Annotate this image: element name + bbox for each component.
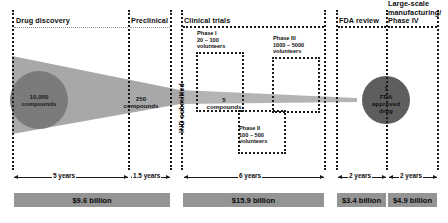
phase-1-unit: volunteers: [197, 43, 225, 50]
divider-clinical-end: [324, 10, 326, 170]
preclinical-unit: compounds: [111, 102, 171, 109]
phase-2-labels: Phase II 100 – 500 volunteers: [239, 125, 267, 145]
divider-fda-start: [336, 10, 338, 170]
divider-preclinical-start: [128, 10, 130, 170]
timeline-arrow-discovery-left: [14, 175, 18, 179]
cost-label-fda: $3.4 billion: [342, 196, 381, 205]
phase-2-unit: volunteers: [239, 138, 267, 145]
drug-development-pipeline-diagram: 10,000 compounds 1 FDA approved drug 250…: [0, 0, 448, 223]
divider-discovery-left: [12, 10, 14, 170]
timeline-arrow-preclinical-right: [166, 175, 170, 179]
timeline-arrow-fda-right: [382, 175, 386, 179]
phase-1-labels: Phase I 20 – 100 volunteers: [197, 30, 225, 50]
timeline-label-clinical: 6 years: [238, 172, 262, 179]
discovery-count: 10,000: [21, 93, 56, 100]
stage-circle-discovery: 10,000 compounds: [10, 71, 68, 129]
phase-iv-line-3: Phase IV: [388, 16, 419, 25]
stage-label-preclinical: 250 compounds: [111, 95, 171, 110]
preclinical-count: 250: [111, 95, 171, 102]
timeline-label-discovery: 5 years: [52, 172, 76, 179]
cost-bar-clinical: $15.9 billion: [183, 193, 324, 207]
phase-1-volunteers: 20 – 100: [197, 37, 225, 44]
timeline-arrow-phase4-right: [433, 175, 437, 179]
phase-1-name: Phase I: [197, 30, 225, 37]
divider-ind-left: [170, 10, 172, 170]
phase-3-labels: Phase III 1000 – 5000 volunteers: [273, 35, 304, 55]
header-rule-preclinical: [130, 27, 170, 28]
section-header-drug-discovery: Drug discovery: [16, 17, 70, 26]
timeline-arrow-phase4-left: [389, 175, 393, 179]
divider-fda-end: [386, 10, 388, 170]
cost-label-phase4: $4.9 billion: [393, 196, 432, 205]
discovery-unit: compounds: [21, 100, 56, 107]
timeline-label-fda: 2 years: [348, 172, 372, 179]
cost-label-discovery-preclinical: $9.6 billion: [72, 196, 111, 205]
phase-2-volunteers: 100 – 500: [239, 132, 267, 139]
cost-bar-discovery-preclinical: $9.6 billion: [14, 193, 170, 207]
phase-2-name: Phase II: [239, 125, 267, 132]
header-rule-discovery: [14, 27, 128, 28]
timeline-arrow-discovery-right: [124, 175, 128, 179]
timeline-arrow-clinical-right: [320, 175, 324, 179]
phase-3-box: [272, 57, 320, 113]
section-header-clinical-trials: Clinical trials: [184, 17, 230, 26]
timeline-label-preclinical: 1.5 years: [132, 172, 161, 179]
timeline-arrow-clinical-left: [184, 175, 188, 179]
section-header-phase-iv: Large-scale manufacturing/ Phase IV: [388, 0, 441, 26]
phase-3-unit: volunteers: [273, 48, 304, 55]
cost-bar-phase4: $4.9 billion: [388, 193, 437, 207]
header-rule-clinical: [183, 26, 324, 28]
timeline-label-phase4: 2 years: [399, 172, 423, 179]
divider-right-edge: [437, 10, 439, 170]
ind-submitted-label: IND submitted: [178, 83, 185, 133]
timeline-arrow-fda-left: [338, 175, 342, 179]
section-header-fda-review: FDA review: [339, 17, 379, 26]
phase-1-box: [196, 52, 244, 112]
cost-bar-fda: $3.4 billion: [337, 193, 386, 207]
section-header-preclinical: Preclinical: [131, 17, 168, 26]
header-rule-phase4: [388, 26, 437, 28]
phase-3-volunteers: 1000 – 5000: [273, 42, 304, 49]
phase-3-name: Phase III: [273, 35, 304, 42]
header-rule-fda: [338, 26, 386, 28]
cost-label-clinical: $15.9 billion: [232, 196, 275, 205]
